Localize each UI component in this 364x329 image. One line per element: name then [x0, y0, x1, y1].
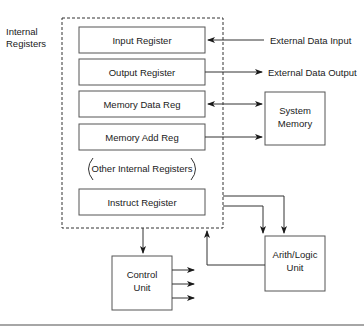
- svg-text:Instruct Register: Instruct Register: [107, 197, 176, 208]
- svg-text:Registers: Registers: [6, 38, 46, 49]
- svg-text:Output Register: Output Register: [109, 67, 176, 78]
- cpu-diagram: Internal Registers Input Register Output…: [0, 0, 364, 329]
- control-unit: Control Unit: [112, 256, 172, 310]
- memory-address-register: Memory Add Reg: [79, 124, 205, 150]
- registers-alu-line-1: [223, 196, 284, 233]
- svg-text:Arith/Logic: Arith/Logic: [273, 249, 318, 260]
- other-internal-registers: Other Internal Registers: [89, 158, 196, 180]
- svg-text:Internal: Internal: [6, 26, 38, 37]
- instruction-register: Instruct Register: [79, 189, 205, 215]
- svg-text:Unit: Unit: [134, 282, 151, 293]
- external-data-output-label: External Data Output: [268, 67, 357, 78]
- registers-alu-line-2: [223, 206, 263, 233]
- svg-text:Memory Add Reg: Memory Add Reg: [105, 132, 178, 143]
- system-memory: System Memory: [265, 92, 325, 145]
- input-register: Input Register: [79, 27, 205, 53]
- svg-text:Input Register: Input Register: [112, 35, 171, 46]
- alu-feedback-arrow: [207, 231, 265, 265]
- svg-text:Unit: Unit: [287, 262, 304, 273]
- internal-registers-label: Internal Registers: [6, 26, 46, 49]
- output-register: Output Register: [79, 59, 205, 85]
- svg-text:Control: Control: [127, 269, 158, 280]
- arith-logic-unit: Arith/Logic Unit: [265, 236, 325, 291]
- external-data-input-label: External Data Input: [270, 35, 352, 46]
- memory-data-register: Memory Data Reg: [79, 91, 205, 117]
- svg-text:Other Internal Registers: Other Internal Registers: [92, 163, 193, 174]
- svg-text:System: System: [279, 105, 311, 116]
- svg-text:Memory Data Reg: Memory Data Reg: [103, 99, 180, 110]
- svg-text:Memory: Memory: [278, 118, 313, 129]
